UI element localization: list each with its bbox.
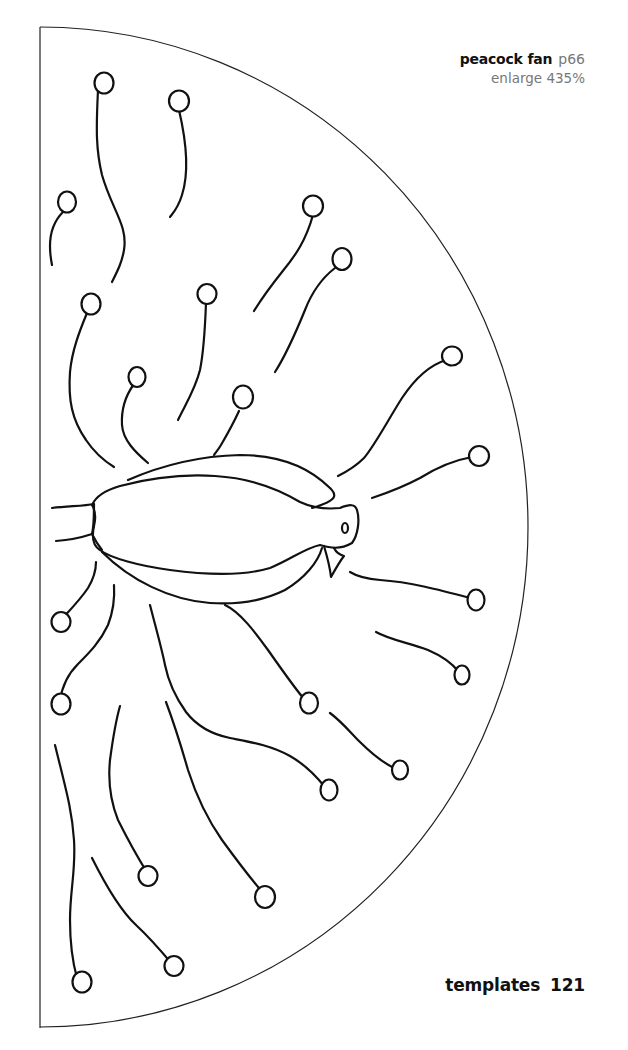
page-number: 121 xyxy=(550,975,585,995)
template-page: peacock fanp66 enlarge 435% templates121 xyxy=(0,0,628,1050)
feather-stems xyxy=(50,90,472,978)
page-reference: p66 xyxy=(558,51,585,67)
section-name: templates xyxy=(445,975,540,995)
page-footer: templates121 xyxy=(445,975,585,995)
template-caption: peacock fanp66 enlarge 435% xyxy=(460,49,585,88)
peacock-body xyxy=(52,455,358,603)
semicircle-outline xyxy=(40,27,528,1028)
feather-eye-dots xyxy=(52,73,490,993)
template-title: peacock fan xyxy=(460,51,553,67)
peacock-fan-template-drawing xyxy=(0,0,628,1050)
enlarge-instruction: enlarge 435% xyxy=(460,69,585,88)
